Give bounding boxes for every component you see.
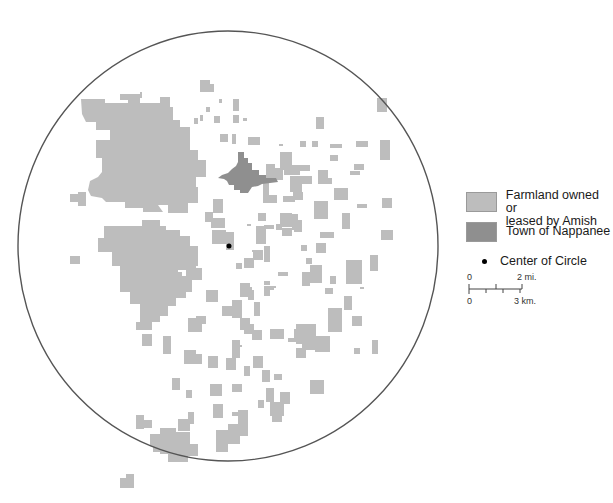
farmland-parcel	[233, 115, 239, 123]
farmland-parcel	[233, 99, 239, 111]
farmland-parcel	[262, 370, 270, 382]
farmland-parcel	[232, 384, 242, 392]
farmland-parcel	[296, 348, 306, 358]
farmland-parcel	[81, 94, 206, 213]
farmland-parcel	[226, 358, 236, 370]
farmland-parcel	[238, 345, 242, 347]
farmland-parcel	[232, 134, 236, 144]
farmland-parcel	[325, 288, 333, 294]
farmland-parcel	[253, 356, 263, 368]
farmland-parcel	[354, 348, 360, 354]
legend-item-town: Town of Nappanee	[466, 222, 610, 242]
farmland-parcel	[290, 184, 302, 192]
farmland-parcel	[266, 388, 274, 402]
farmland-parcel	[196, 354, 202, 364]
farmland-parcel	[357, 204, 367, 208]
farmland-parcel	[210, 384, 222, 396]
farmland-parcel	[310, 265, 322, 283]
farmland-parcel	[126, 474, 134, 482]
farmland-parcel	[294, 329, 300, 341]
scale-bar	[469, 284, 522, 294]
farmland-parcel	[254, 302, 260, 316]
farmland-parcel	[342, 213, 350, 229]
farmland-parcel	[252, 250, 256, 252]
farmland-parcel	[279, 144, 283, 146]
legend-town-label: Town of Nappanee	[506, 225, 610, 238]
farmland-parcel	[240, 318, 250, 330]
scale-miles-zero: 0	[467, 272, 472, 282]
farmland-parcel	[243, 118, 247, 121]
farmland-parcel	[136, 415, 144, 429]
farmland-parcel	[263, 195, 277, 203]
farmland-parcel	[330, 155, 338, 161]
farmland-parcel	[316, 243, 326, 253]
farmland-parcel	[300, 165, 310, 171]
legend-center-label: Center of Circle	[500, 255, 587, 268]
farmland-parcel	[272, 412, 282, 422]
farmland-parcel	[200, 80, 214, 92]
farmland-parcel	[312, 141, 318, 147]
farmland-parcel	[264, 281, 270, 285]
farmland-parcel	[252, 330, 262, 340]
farmland-parcel	[354, 164, 364, 170]
farmland-parcel	[163, 336, 171, 354]
farmland-parcel	[306, 258, 312, 264]
farmland-parcel	[196, 316, 206, 324]
farmland-parcel	[232, 340, 240, 358]
farmland-parcel	[300, 141, 306, 147]
legend-item-center: Center of Circle	[466, 255, 587, 268]
farmland-parcel	[350, 171, 360, 175]
farmland-parcel	[206, 107, 210, 112]
farmland-parcel	[320, 232, 334, 238]
farmland-parcel	[213, 199, 223, 213]
farmland-parcel	[316, 117, 324, 129]
farmland-parcel	[244, 258, 254, 268]
farmland-swatch-icon	[466, 192, 497, 212]
farmland-parcel	[120, 94, 132, 100]
farmland-parcel	[302, 272, 310, 286]
farmland-parcel	[326, 178, 332, 184]
farmland-parcel	[220, 134, 228, 142]
farmland-parcel	[314, 201, 328, 219]
center-dot-icon	[482, 259, 487, 264]
farmland-parcel	[293, 192, 303, 200]
farmland-parcel	[172, 378, 180, 390]
farmland-parcel	[248, 290, 254, 300]
scale-km-zero: 0	[467, 296, 472, 306]
farmland-parcel	[258, 213, 266, 221]
farmland-parcel	[310, 380, 324, 394]
farmland-parcel	[268, 286, 274, 290]
farmland-parcel	[194, 118, 198, 124]
legend-farmland-label-line1: Farmland owned or	[506, 189, 613, 215]
farmland-parcel	[200, 115, 203, 121]
farmland-parcel	[70, 256, 80, 264]
farmland-parcel	[372, 340, 378, 354]
farmland-parcel	[334, 188, 348, 200]
farmland-map	[0, 0, 613, 503]
town-swatch-icon	[466, 222, 497, 242]
farmland-parcel	[247, 224, 251, 226]
farmland-parcel	[144, 308, 154, 320]
farmland-parcel	[282, 228, 292, 236]
farmland-parcel	[244, 366, 250, 376]
farmland-parcel	[315, 336, 330, 352]
farmland-parcel	[270, 329, 284, 339]
farmland-parcel	[188, 412, 194, 424]
farmland-parcel	[214, 116, 220, 123]
farmland-parcel	[211, 218, 225, 228]
farmland-parcel	[370, 255, 378, 271]
farmland-parcel	[264, 246, 270, 262]
farmland-parcel	[292, 214, 298, 220]
farmland-parcel	[382, 198, 392, 208]
farmland-parcel	[330, 276, 336, 284]
farmland-parcel	[278, 272, 288, 276]
farmland-parcel	[361, 141, 363, 143]
farmland-parcel	[380, 140, 390, 160]
farmland-parcels	[70, 80, 393, 488]
center-of-circle-marker	[227, 244, 232, 249]
farmland-parcel	[236, 263, 242, 269]
farmland-parcel	[301, 245, 307, 251]
farmland-parcel	[328, 308, 342, 332]
farmland-parcel	[312, 343, 316, 345]
farmland-parcel	[330, 144, 342, 148]
